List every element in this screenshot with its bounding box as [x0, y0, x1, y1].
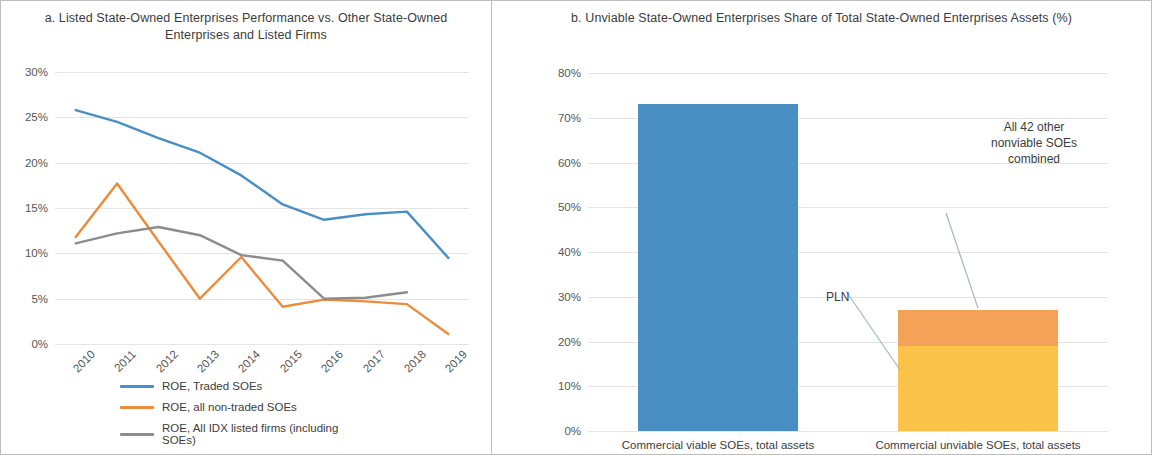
x-axis-tick-label: 2016 — [319, 348, 346, 375]
pln-segment — [898, 346, 1058, 431]
legend-swatch — [120, 385, 154, 388]
y-axis-tick-label: 70% — [558, 112, 588, 124]
legend-item: ROE, All IDX listed firms (including SOE… — [120, 422, 372, 446]
legend-label: ROE, all non-traded SOEs — [162, 401, 297, 413]
y-axis-tick-label: 30% — [558, 291, 588, 303]
bar-1 — [898, 310, 1058, 431]
panel-a-plot-area: 0%5%10%15%20%25%30% 20102011201220132014… — [55, 72, 469, 344]
gridline — [588, 73, 1108, 74]
y-axis-tick-label: 15% — [25, 202, 55, 214]
panel-a-legend: ROE, Traded SOEsROE, all non-traded SOEs… — [1, 380, 491, 446]
y-axis-tick-label: 80% — [558, 67, 588, 79]
annotation-other-nonviable: All 42 other nonviable SOEs combined — [944, 119, 1124, 168]
panel-a-series-lines — [55, 72, 469, 344]
panel-b-title: b. Unviable State-Owned Enterprises Shar… — [492, 10, 1151, 27]
y-axis-tick-label: 40% — [558, 246, 588, 258]
y-axis-tick-label: 25% — [25, 111, 55, 123]
annotation-pln: PLN — [826, 289, 849, 305]
legend-item: ROE, all non-traded SOEs — [120, 401, 372, 413]
x-axis-tick-label: Commercial viable SOEs, total assets — [622, 439, 814, 451]
gridline — [55, 344, 469, 345]
x-axis-tick-label: 2010 — [70, 348, 97, 375]
y-axis-tick-label: 5% — [31, 293, 55, 305]
panel-a-title: a. Listed State-Owned Enterprises Perfor… — [1, 10, 491, 44]
viable-segment — [638, 104, 798, 431]
x-axis-tick-label: 2019 — [443, 348, 470, 375]
x-axis-tick-label: 2013 — [195, 348, 222, 375]
x-axis-tick-label: Commercial unviable SOEs, total assets — [875, 439, 1080, 451]
y-axis-tick-label: 60% — [558, 157, 588, 169]
legend-swatch — [120, 406, 154, 409]
legend-label: ROE, All IDX listed firms (including SOE… — [162, 422, 372, 446]
x-axis-tick-label: 2012 — [153, 348, 180, 375]
y-axis-tick-label: 20% — [558, 336, 588, 348]
x-axis-tick-label: 2014 — [236, 348, 263, 375]
legend-swatch — [120, 433, 154, 436]
panel-a: a. Listed State-Owned Enterprises Perfor… — [0, 0, 492, 455]
y-axis-tick-label: 10% — [558, 380, 588, 392]
x-axis-tick-label: 2017 — [360, 348, 387, 375]
figure-container: a. Listed State-Owned Enterprises Perfor… — [0, 0, 1152, 455]
y-axis-tick-label: 50% — [558, 201, 588, 213]
other-nonviable-segment — [898, 310, 1058, 346]
x-axis-tick-label: 2015 — [277, 348, 304, 375]
y-axis-tick-label: 0% — [564, 425, 588, 437]
panel-b: b. Unviable State-Owned Enterprises Shar… — [492, 0, 1152, 455]
legend-item: ROE, Traded SOEs — [120, 380, 372, 392]
gridline — [588, 431, 1108, 432]
x-axis-tick-label: 2018 — [402, 348, 429, 375]
legend-label: ROE, Traded SOEs — [162, 380, 262, 392]
bar-0 — [638, 104, 798, 431]
x-axis-tick-label: 2011 — [112, 348, 138, 374]
y-axis-tick-label: 30% — [25, 66, 55, 78]
y-axis-tick-label: 0% — [31, 338, 55, 350]
y-axis-tick-label: 10% — [25, 247, 55, 259]
y-axis-tick-label: 20% — [25, 157, 55, 169]
